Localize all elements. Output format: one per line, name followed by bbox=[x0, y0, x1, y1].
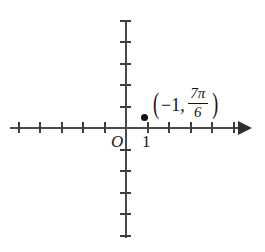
y-axis-tick bbox=[120, 84, 131, 86]
fraction-numerator-number: 7 bbox=[190, 85, 198, 101]
x-axis-tick bbox=[190, 122, 192, 133]
x-axis-tick bbox=[233, 122, 235, 133]
y-axis-tick bbox=[120, 235, 131, 237]
x-axis-tick bbox=[82, 122, 84, 133]
y-axis-tick bbox=[120, 192, 131, 194]
annotation-open-paren: ( bbox=[153, 88, 159, 118]
polar-point-figure: O 1 ( −1, 7π 6 ) bbox=[0, 0, 265, 252]
plotted-point-marker bbox=[141, 114, 148, 121]
annotation-angle-fraction: 7π 6 bbox=[188, 86, 208, 121]
x-axis-tick bbox=[104, 122, 106, 133]
annotation-radius-value: −1, bbox=[161, 93, 185, 114]
x-tick-label-1: 1 bbox=[142, 133, 151, 150]
x-axis-tick bbox=[39, 122, 41, 133]
x-axis-tick bbox=[18, 122, 20, 133]
point-annotation: ( −1, 7π 6 ) bbox=[151, 86, 220, 121]
x-axis-tick bbox=[168, 122, 170, 133]
annotation-close-paren: ) bbox=[212, 88, 218, 118]
x-axis-arrow-icon bbox=[238, 121, 252, 135]
y-axis-tick bbox=[120, 20, 131, 22]
fraction-denominator: 6 bbox=[193, 105, 203, 121]
y-axis-line bbox=[125, 22, 127, 238]
pi-symbol: π bbox=[198, 85, 206, 101]
x-axis-tick bbox=[61, 122, 63, 133]
x-axis-tick bbox=[211, 122, 213, 133]
y-axis-tick bbox=[120, 213, 131, 215]
origin-label: O bbox=[111, 133, 123, 150]
fraction-numerator: 7π bbox=[189, 86, 206, 102]
y-axis-tick bbox=[120, 41, 131, 43]
y-axis-tick bbox=[120, 106, 131, 108]
y-axis-tick bbox=[120, 63, 131, 65]
y-axis-tick bbox=[120, 170, 131, 172]
